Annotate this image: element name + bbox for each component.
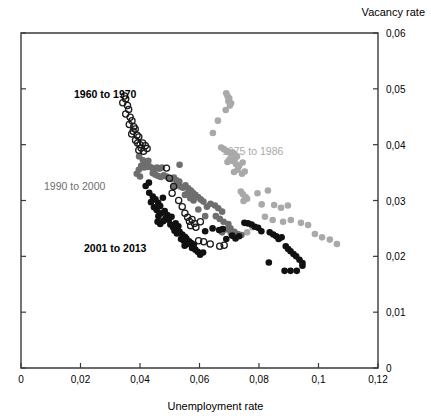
data-point — [176, 197, 182, 203]
data-point — [179, 204, 185, 210]
data-point — [262, 213, 269, 220]
series-label-1990-to-2000: 1990 to 2000 — [44, 180, 105, 192]
data-point — [265, 187, 272, 194]
data-point — [278, 234, 285, 241]
data-point — [168, 213, 175, 220]
series-label-1975-to-1986: 1975 to 1986 — [222, 145, 283, 157]
data-point — [258, 201, 265, 208]
data-point — [334, 241, 341, 248]
data-point — [176, 161, 183, 168]
data-point — [278, 204, 285, 211]
x-tick-label: 0,12 — [368, 374, 387, 385]
data-point — [227, 225, 234, 232]
y-tick-label: 0,06 — [386, 28, 405, 39]
data-point — [169, 190, 175, 196]
data-point — [244, 196, 251, 203]
x-tick-label: 0 — [18, 374, 24, 385]
x-tick-label: 0,02 — [71, 374, 90, 385]
data-point — [241, 168, 248, 175]
data-point — [288, 217, 295, 224]
data-point — [285, 202, 292, 209]
data-point — [222, 107, 229, 114]
y-tick-label: 0,05 — [386, 83, 405, 94]
data-point — [207, 241, 213, 247]
x-tick-label: 0,08 — [249, 374, 268, 385]
data-point — [223, 236, 230, 243]
data-point — [280, 218, 287, 225]
series-label-2001-to-2013: 2001 to 2013 — [84, 242, 146, 254]
data-points-layer — [120, 90, 341, 274]
data-point — [305, 222, 312, 229]
data-point — [281, 268, 288, 275]
data-point — [200, 249, 207, 256]
data-point — [298, 220, 305, 227]
y-tick-label: 0,03 — [386, 195, 405, 206]
data-point — [145, 158, 152, 165]
data-point — [202, 213, 209, 220]
data-point — [266, 259, 273, 266]
data-point — [157, 203, 164, 210]
data-point — [210, 130, 217, 137]
data-point — [327, 236, 334, 243]
data-point — [126, 106, 132, 112]
data-point — [299, 263, 306, 270]
y-tick-label: 0,04 — [386, 139, 405, 150]
data-point — [224, 159, 231, 166]
data-point — [202, 228, 209, 235]
data-point — [258, 228, 265, 235]
data-point — [239, 159, 246, 166]
data-point — [219, 226, 226, 233]
data-point — [197, 219, 203, 225]
data-point — [319, 234, 326, 241]
data-point — [124, 102, 130, 108]
series-label-1960-to-1970: 1960 to 1970 — [74, 88, 136, 100]
data-point — [236, 233, 243, 240]
data-point — [254, 190, 261, 197]
data-point — [287, 268, 294, 275]
y-tick-label: 0,01 — [386, 307, 405, 318]
data-point — [209, 225, 216, 232]
data-point — [155, 213, 162, 220]
data-point — [271, 202, 278, 209]
data-point — [215, 117, 222, 124]
data-point — [293, 268, 300, 275]
beveridge-curve-chart: Vacancy rate Unemployment rate 00,020,04… — [0, 0, 431, 420]
plot-area — [0, 0, 431, 420]
x-tick-label: 0,04 — [130, 374, 149, 385]
data-point — [146, 179, 153, 186]
data-point — [154, 218, 161, 225]
data-point — [231, 169, 238, 176]
data-point — [137, 173, 144, 180]
data-point — [269, 217, 276, 224]
y-tick-label: 0 — [386, 363, 392, 374]
y-tick-label: 0,02 — [386, 251, 405, 262]
data-point — [160, 194, 167, 201]
data-point — [312, 231, 319, 238]
data-point — [190, 197, 197, 204]
data-point — [195, 206, 202, 213]
data-point — [181, 242, 188, 249]
data-point — [244, 229, 251, 236]
series-2001-to-2013 — [142, 179, 305, 274]
data-point — [219, 208, 226, 215]
x-tick-label: 0,1 — [312, 374, 326, 385]
x-tick-label: 0,06 — [190, 374, 209, 385]
